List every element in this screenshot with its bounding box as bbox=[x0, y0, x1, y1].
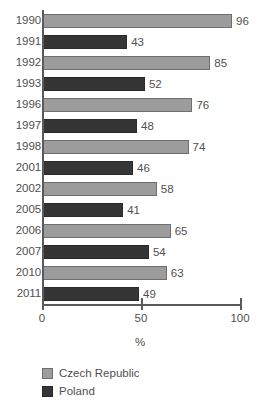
y-axis-category-label: 2011 bbox=[0, 283, 41, 304]
bar bbox=[42, 266, 167, 280]
x-axis-tick bbox=[240, 298, 242, 310]
x-axis-tick-label: 0 bbox=[22, 312, 62, 324]
bar bbox=[42, 35, 127, 49]
bar-track: 43 bbox=[42, 35, 240, 49]
bar-value-label: 52 bbox=[145, 77, 162, 91]
y-axis-category-label: 2001 bbox=[0, 157, 41, 178]
y-axis-category-label: 2007 bbox=[0, 241, 41, 262]
bar-track: 96 bbox=[42, 14, 240, 28]
legend-item: Poland bbox=[42, 384, 222, 399]
legend-label: Poland bbox=[59, 385, 95, 398]
bar bbox=[42, 77, 145, 91]
y-axis-category-label: 1992 bbox=[0, 52, 41, 73]
bar bbox=[42, 98, 192, 112]
x-axis-tick bbox=[141, 298, 143, 310]
x-axis-title: % bbox=[120, 336, 160, 348]
y-axis-category-label: 2005 bbox=[0, 199, 41, 220]
bar-value-label: 54 bbox=[149, 245, 166, 259]
chart-legend: Czech RepublicPoland bbox=[42, 366, 222, 401]
bar bbox=[42, 287, 139, 301]
bar-track: 76 bbox=[42, 98, 240, 112]
y-axis-line bbox=[42, 10, 44, 306]
y-axis-category-label: 1997 bbox=[0, 115, 41, 136]
bar-rows: 1990961991431992851993521996761997481998… bbox=[0, 10, 265, 304]
bar bbox=[42, 203, 123, 217]
y-axis-category-label: 1996 bbox=[0, 94, 41, 115]
legend-swatch-icon bbox=[42, 368, 53, 379]
y-axis-category-label: 2002 bbox=[0, 178, 41, 199]
legend-swatch-icon bbox=[42, 386, 53, 397]
bar-row: 200146 bbox=[0, 157, 265, 178]
bar-value-label: 48 bbox=[137, 119, 154, 133]
bar bbox=[42, 182, 157, 196]
bar-value-label: 74 bbox=[189, 140, 206, 154]
bar-row: 199676 bbox=[0, 94, 265, 115]
bar-track: 74 bbox=[42, 140, 240, 154]
y-axis-category-label: 2010 bbox=[0, 262, 41, 283]
bar-value-label: 46 bbox=[133, 161, 150, 175]
bar-track: 65 bbox=[42, 224, 240, 238]
y-axis-category-label: 1998 bbox=[0, 136, 41, 157]
x-axis-tick-label: 100 bbox=[220, 312, 260, 324]
bar-track: 54 bbox=[42, 245, 240, 259]
bar-row: 201149 bbox=[0, 283, 265, 304]
bar bbox=[42, 14, 232, 28]
bar-row: 200754 bbox=[0, 241, 265, 262]
bar-track: 48 bbox=[42, 119, 240, 133]
plot-area: 1990961991431992851993521996761997481998… bbox=[0, 10, 265, 310]
bar bbox=[42, 161, 133, 175]
bar-row: 201063 bbox=[0, 262, 265, 283]
y-axis-category-label: 2006 bbox=[0, 220, 41, 241]
bar-row: 200541 bbox=[0, 199, 265, 220]
bar-track: 41 bbox=[42, 203, 240, 217]
y-axis-category-label: 1990 bbox=[0, 10, 41, 31]
bar-value-label: 65 bbox=[171, 224, 188, 238]
bar-row: 199748 bbox=[0, 115, 265, 136]
bar-value-label: 96 bbox=[232, 14, 249, 28]
bar-value-label: 43 bbox=[127, 35, 144, 49]
bar bbox=[42, 245, 149, 259]
bar-row: 199096 bbox=[0, 10, 265, 31]
bar-row: 200665 bbox=[0, 220, 265, 241]
bar-track: 58 bbox=[42, 182, 240, 196]
bar-row: 199285 bbox=[0, 52, 265, 73]
bar-value-label: 63 bbox=[167, 266, 184, 280]
bar-track: 52 bbox=[42, 77, 240, 91]
bar bbox=[42, 119, 137, 133]
bar-row: 200258 bbox=[0, 178, 265, 199]
bar bbox=[42, 224, 171, 238]
legend-label: Czech Republic bbox=[59, 367, 140, 380]
bar-track: 85 bbox=[42, 56, 240, 70]
bar-row: 199352 bbox=[0, 73, 265, 94]
x-axis-tick bbox=[42, 298, 44, 310]
bar-track: 63 bbox=[42, 266, 240, 280]
bar-row: 199874 bbox=[0, 136, 265, 157]
bar-value-label: 76 bbox=[192, 98, 209, 112]
y-axis-category-label: 1991 bbox=[0, 31, 41, 52]
bar-value-label: 85 bbox=[210, 56, 227, 70]
bar bbox=[42, 56, 210, 70]
legend-item: Czech Republic bbox=[42, 366, 222, 381]
bar-value-label: 58 bbox=[157, 182, 174, 196]
bar-track: 46 bbox=[42, 161, 240, 175]
x-axis-tick-label: 50 bbox=[121, 312, 161, 324]
y-axis-category-label: 1993 bbox=[0, 73, 41, 94]
bar-value-label: 41 bbox=[123, 203, 140, 217]
bar bbox=[42, 140, 189, 154]
bar-row: 199143 bbox=[0, 31, 265, 52]
